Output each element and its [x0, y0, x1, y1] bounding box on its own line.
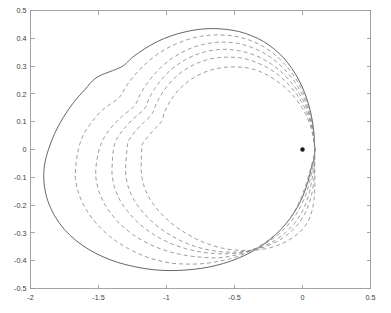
curve-1 [44, 29, 315, 271]
plot-frame [31, 11, 371, 289]
y-tick-label-7: 0.2 [17, 90, 27, 99]
marker-group [300, 147, 304, 151]
x-tick-label-2: -1 [163, 293, 169, 302]
y-tick-label-2: -0.3 [14, 229, 26, 238]
origin-marker [300, 147, 304, 151]
y-tick-label-0: -0.5 [14, 284, 26, 293]
x-axis-ticks [31, 11, 371, 289]
y-tick-label-4: -0.1 [14, 173, 26, 182]
curve-2 [75, 35, 315, 264]
curve-6 [141, 67, 315, 251]
y-axis-ticks [31, 11, 371, 289]
stability-region-plot: -2-1.5-1-0.500.5 -0.5-0.4-0.3-0.2-0.100.… [0, 0, 391, 313]
axes-box [31, 11, 371, 289]
y-tick-label-3: -0.2 [14, 201, 26, 210]
curve-group [44, 29, 315, 271]
x-tick-label-4: 0 [301, 293, 305, 302]
x-tick-label-0: -2 [27, 293, 33, 302]
curve-3 [96, 42, 315, 258]
y-tick-label-5: 0 [23, 145, 27, 154]
x-axis-tick-labels: -2-1.5-1-0.500.5 [27, 293, 375, 302]
x-tick-label-5: 0.5 [366, 293, 376, 302]
x-tick-label-1: -1.5 [92, 293, 104, 302]
y-tick-label-9: 0.4 [17, 34, 27, 43]
y-tick-label-8: 0.3 [17, 62, 27, 71]
y-axis-tick-labels: -0.5-0.4-0.3-0.2-0.100.10.20.30.40.5 [14, 6, 26, 293]
figure-container: -2-1.5-1-0.500.5 -0.5-0.4-0.3-0.2-0.100.… [0, 0, 391, 313]
y-tick-label-10: 0.5 [17, 6, 27, 15]
y-tick-label-1: -0.4 [14, 256, 26, 265]
y-tick-label-6: 0.1 [17, 117, 27, 126]
x-tick-label-3: -0.5 [228, 293, 240, 302]
